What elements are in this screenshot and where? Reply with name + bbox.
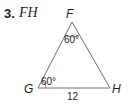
side-label-gh: 12 xyxy=(67,92,78,102)
vertex-label-g: G xyxy=(24,83,33,95)
angle-label-f: 60° xyxy=(64,35,79,45)
vertex-label-f: F xyxy=(66,8,73,20)
triangle-diagram xyxy=(0,0,128,104)
vertex-label-h: H xyxy=(112,83,121,95)
angle-label-g: 60° xyxy=(41,77,56,87)
